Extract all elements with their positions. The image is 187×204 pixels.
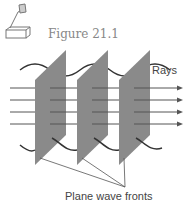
wave-diagram bbox=[0, 0, 187, 204]
rays-label: Rays bbox=[152, 64, 177, 76]
plane-front-3 bbox=[119, 50, 150, 165]
plane-front-1 bbox=[35, 50, 66, 165]
plane-wave-fronts-label: Plane wave fronts bbox=[65, 190, 152, 202]
plane-front-2 bbox=[77, 50, 108, 165]
